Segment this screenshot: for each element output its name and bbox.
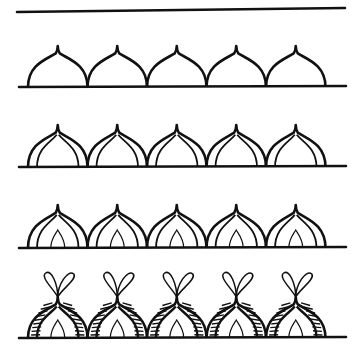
stripe (74, 327, 83, 328)
stripe (276, 311, 285, 313)
top-border-line (17, 8, 345, 12)
petal-motif (110, 320, 124, 338)
stripe (193, 327, 202, 328)
baseline (19, 86, 346, 87)
petal-motif (170, 230, 184, 248)
stripe (134, 331, 143, 332)
stripe (211, 327, 220, 328)
stripe (32, 331, 41, 332)
pattern-canvas (0, 0, 364, 357)
baseline (19, 247, 346, 248)
stripe (43, 303, 52, 306)
right-loop (177, 273, 194, 297)
stripe (68, 311, 77, 313)
stripe (270, 331, 279, 332)
petal-motif (51, 230, 65, 248)
petal-motif (170, 320, 184, 338)
stripe (281, 303, 290, 306)
row-1-plain-domes (19, 46, 346, 87)
stripe (270, 327, 279, 328)
stripe (253, 331, 262, 332)
stripe (312, 327, 321, 328)
petal-motif (289, 230, 303, 248)
dome-arch (266, 46, 326, 87)
stripe (182, 303, 191, 306)
stripe (217, 311, 226, 313)
stripe (247, 311, 256, 313)
stripe (151, 327, 160, 328)
stripe (134, 327, 143, 328)
row-3-domes-with-petal (19, 205, 346, 248)
petal-motif (229, 230, 243, 248)
left-loop (104, 272, 117, 297)
stripe (123, 303, 132, 306)
dome-arch (147, 46, 207, 87)
stripe (151, 331, 160, 332)
left-loop (282, 272, 295, 297)
stripe (194, 331, 203, 332)
stripe (242, 303, 251, 306)
right-loop (236, 273, 253, 297)
stripe (306, 311, 315, 313)
stripe (128, 311, 137, 313)
petal-motif (229, 320, 243, 338)
stripe (92, 327, 101, 328)
pattern-layer (17, 8, 346, 338)
baseline (19, 166, 346, 167)
baseline (19, 337, 346, 338)
stripe (187, 311, 196, 313)
stripe (91, 331, 100, 332)
right-loop (58, 273, 75, 297)
row-2-double-outline-domes (19, 125, 346, 167)
petal-motif (110, 230, 124, 248)
stripe (253, 327, 262, 328)
dome-arch (207, 46, 267, 87)
left-loop (223, 272, 236, 297)
petal-motif (289, 320, 303, 338)
right-loop (117, 273, 134, 297)
stripe (313, 331, 322, 332)
stripe (32, 327, 41, 328)
stripe (210, 331, 219, 332)
left-loop (44, 272, 57, 297)
petal-motif (51, 320, 65, 338)
stripe (75, 331, 84, 332)
left-loop (163, 272, 176, 297)
stripe (98, 311, 107, 313)
stripe (222, 303, 231, 306)
dome-arch (88, 46, 148, 87)
row-4-striped-domes-with-loops (19, 272, 346, 338)
stripe (103, 303, 112, 306)
stripe (301, 303, 310, 306)
stripe (38, 311, 47, 313)
stripe (63, 303, 72, 306)
right-loop (296, 273, 313, 297)
dome-arch (28, 46, 88, 87)
stripe (157, 311, 166, 313)
stripe (162, 303, 171, 306)
